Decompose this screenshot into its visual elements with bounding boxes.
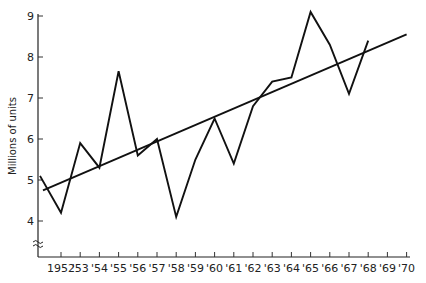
x-tick-label: '55	[110, 262, 127, 275]
x-tick-label: '59	[187, 262, 204, 275]
y-tick-label: 8	[27, 51, 34, 64]
x-tick-label: '68	[360, 262, 377, 275]
x-tick-label: '58	[168, 262, 185, 275]
x-tick-label: '66	[321, 262, 338, 275]
x-tick-label: '57	[148, 262, 165, 275]
y-tick-label: 7	[27, 92, 34, 105]
y-axis: 456789 Millions of units	[7, 10, 43, 257]
y-axis-label: Millions of units	[7, 97, 18, 175]
x-tick-label: '54	[91, 262, 108, 275]
y-tick-label: 5	[27, 174, 34, 187]
x-tick-label: '64	[283, 262, 300, 275]
trend-line	[43, 34, 407, 190]
x-tick-label: '60	[206, 262, 223, 275]
x-tick-label: '61	[225, 262, 242, 275]
x-tick-label: '65	[302, 262, 319, 275]
y-tick-label: 6	[27, 133, 34, 146]
x-tick-label: '62	[244, 262, 261, 275]
x-tick-label: '63	[264, 262, 281, 275]
y-tick-label: 4	[27, 215, 34, 228]
x-tick-label: '56	[129, 262, 146, 275]
x-tick-label: '67	[340, 262, 357, 275]
line-chart: 456789 Millions of units 1952'53'54'55'5…	[0, 0, 426, 283]
x-tick-label: '53	[72, 262, 89, 275]
data-series-line	[40, 12, 368, 217]
plot-area	[40, 12, 407, 217]
x-tick-label: '70	[398, 262, 415, 275]
x-tick-label: '69	[379, 262, 396, 275]
x-axis: 1952'53'54'55'56'57'58'59'60'61'62'63'64…	[38, 252, 415, 275]
y-tick-label: 9	[27, 10, 34, 23]
